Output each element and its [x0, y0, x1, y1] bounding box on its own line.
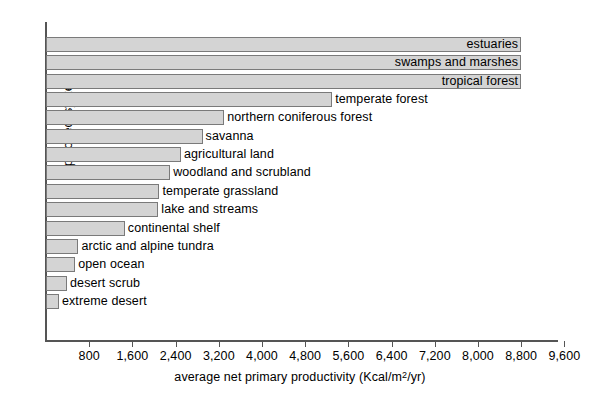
bar-label: tropical forest [442, 73, 519, 89]
bar-label: arctic and alpine tundra [81, 238, 213, 254]
bar-label: swamps and marshes [395, 54, 518, 70]
bar-label: temperate forest [335, 91, 428, 107]
x-axis-tick [176, 341, 177, 347]
bar-row: savanna [46, 129, 203, 144]
bar-label: temperate grassland [162, 183, 278, 199]
bar[interactable] [46, 276, 67, 291]
x-axis-title-prefix: average net primary productivity (Kcal/m [174, 370, 402, 384]
bar-label: savanna [206, 128, 254, 144]
x-axis-tick-label: 4,800 [289, 349, 321, 363]
bar[interactable] [46, 202, 158, 217]
x-axis-tick-label: 8,000 [462, 349, 494, 363]
bar-row: extreme desert [46, 294, 59, 309]
bar-label: continental shelf [128, 220, 220, 236]
x-axis-tick-label: 1,600 [117, 349, 149, 363]
bar[interactable] [46, 147, 181, 162]
x-axis-tick-label: 5,600 [333, 349, 365, 363]
bar-row: temperate forest [46, 92, 332, 107]
x-axis-title-suffix: /yr) [407, 370, 425, 384]
x-axis-tick [132, 341, 133, 347]
bar[interactable] [46, 165, 170, 180]
x-axis-tick-label: 800 [79, 349, 100, 363]
bar-label: northern coniferous forest [227, 109, 372, 125]
x-axis-tick-label: 8,800 [505, 349, 537, 363]
bar-row: tropical forest [46, 74, 521, 89]
bar-label: extreme desert [62, 293, 147, 309]
bar-row: continental shelf [46, 221, 125, 236]
x-axis-tick-label: 6,400 [376, 349, 408, 363]
x-axis-tick-label: 4,000 [246, 349, 278, 363]
x-axis-tick [89, 341, 90, 347]
x-axis-tick-label: 7,200 [419, 349, 451, 363]
bar-label: estuaries [467, 36, 519, 52]
bar[interactable] [46, 110, 224, 125]
x-axis-tick [478, 341, 479, 347]
x-axis-tick-label: 9,600 [549, 349, 581, 363]
bar-chart-figure: type of ecosystem estuariesswamps and ma… [0, 0, 600, 407]
bar[interactable] [46, 184, 159, 199]
x-axis-tick [564, 341, 565, 347]
x-axis-tick [262, 341, 263, 347]
bar-row: woodland and scrubland [46, 165, 170, 180]
bar-label: woodland and scrubland [173, 164, 311, 180]
bar-row: agricultural land [46, 147, 181, 162]
bar-row: lake and streams [46, 202, 158, 217]
bar-row: estuaries [46, 37, 521, 52]
bar[interactable] [46, 239, 78, 254]
bar[interactable] [46, 92, 332, 107]
x-axis-title: average net primary productivity (Kcal/m… [0, 370, 600, 384]
bar[interactable] [46, 129, 203, 144]
bar-row: northern coniferous forest [46, 110, 224, 125]
x-axis-tick [521, 341, 522, 347]
bar[interactable] [46, 257, 75, 272]
x-axis-tick [348, 341, 349, 347]
bar[interactable] [46, 37, 521, 52]
bar-row: swamps and marshes [46, 55, 521, 70]
bar-row: temperate grassland [46, 184, 159, 199]
bar-label: desert scrub [70, 275, 140, 291]
x-axis-tick [305, 341, 306, 347]
bar-label: open ocean [78, 256, 144, 272]
bar[interactable] [46, 221, 125, 236]
bar-label: lake and streams [161, 201, 258, 217]
bar-row: desert scrub [46, 276, 67, 291]
x-axis-tick [392, 341, 393, 347]
x-axis-tick [435, 341, 436, 347]
x-axis-tick-label: 3,200 [203, 349, 235, 363]
bar-label: agricultural land [184, 146, 274, 162]
bar-row: arctic and alpine tundra [46, 239, 78, 254]
x-axis-tick-label: 2,400 [160, 349, 192, 363]
bar[interactable] [46, 294, 59, 309]
x-axis-line [45, 340, 558, 342]
x-axis-tick [219, 341, 220, 347]
bar-row: open ocean [46, 257, 75, 272]
